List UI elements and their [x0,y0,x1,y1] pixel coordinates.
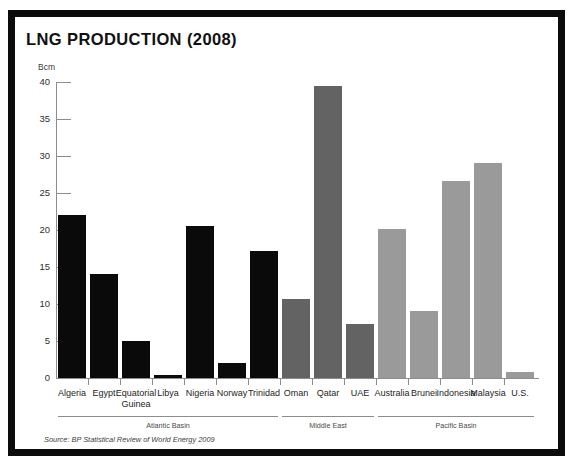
x-axis-category-label: U.S. [494,388,546,399]
x-axis-tick [280,379,281,385]
x-axis-tick [184,379,185,385]
y-axis-tick-label: 20 [24,224,50,235]
bar-nigeria [186,226,214,378]
y-axis-tick-label: 25 [24,187,50,198]
y-axis-tick [56,119,71,120]
bar-australia [378,229,406,378]
x-axis-tick [216,379,217,385]
bar-malaysia [474,163,502,378]
y-axis-tick-label: 40 [24,76,50,87]
bar-uae [346,324,374,378]
bar-oman [282,299,310,378]
source-note: Source: BP Statistical Review of World E… [44,435,215,444]
bar-qatar [314,86,342,378]
bar-equatorial-guinea [122,341,150,378]
category-label-line: Guinea [110,399,162,410]
y-axis-tick [56,82,71,83]
category-label-line: U.S. [494,388,546,399]
group-label-middle-east: Middle East [282,421,374,430]
y-axis-tick [56,193,71,194]
y-axis-tick-label: 10 [24,298,50,309]
x-axis-tick [376,379,377,385]
y-axis-tick-label: 15 [24,261,50,272]
bar-algeria [58,215,86,378]
plot-area: 0510152025303540AlgeriaEgyptEquatorialGu… [0,0,575,470]
bar-trinidad [250,251,278,378]
y-axis-tick [56,156,71,157]
x-axis-tick [248,379,249,385]
x-axis-tick [312,379,313,385]
x-axis-baseline [56,378,539,379]
bar-u-s [506,372,534,378]
x-axis-tick [88,379,89,385]
bar-libya [154,375,182,378]
chart-figure: LNG PRODUCTION (2008) Bcm 05101520253035… [0,0,575,470]
x-axis-tick [408,379,409,385]
bar-brunei [410,311,438,378]
y-axis-tick-label: 30 [24,150,50,161]
x-axis-tick [504,379,505,385]
bar-egypt [90,274,118,378]
x-axis-tick [440,379,441,385]
x-axis-tick [472,379,473,385]
group-rule [58,416,278,417]
group-rule [282,416,374,417]
y-axis-tick-label: 35 [24,113,50,124]
x-axis-tick [344,379,345,385]
bar-indonesia [442,181,470,378]
y-axis-tick-label: 5 [24,335,50,346]
group-label-pacific-basin: Pacific Basin [378,421,534,430]
bar-norway [218,363,246,378]
x-axis-tick [152,379,153,385]
group-rule [378,416,534,417]
group-label-atlantic-basin: Atlantic Basin [58,421,278,430]
x-axis-tick [120,379,121,385]
y-axis-tick-label: 0 [24,372,50,383]
